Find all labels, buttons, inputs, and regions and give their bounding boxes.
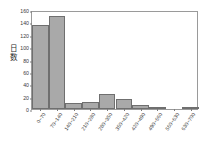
y-tick-mark: [30, 12, 32, 13]
x-tick-label-text: 280~350: [97, 112, 113, 132]
x-tick-label-text: 560~630: [164, 112, 180, 132]
y-tick-mark: [30, 111, 32, 112]
bar: [99, 94, 116, 109]
bar: [116, 99, 133, 109]
x-tick-label-text: 420~490: [131, 112, 147, 132]
x-tick-label-text: 140~210: [64, 112, 80, 132]
x-tick-label-text: 350~420: [114, 112, 130, 132]
histogram-chart: 日 数 020406080100120140160 0~7070~140140~…: [0, 0, 206, 142]
y-axis-title: 日 数: [7, 44, 19, 63]
x-tick-label-text: 70~140: [49, 112, 63, 129]
bar: [49, 16, 66, 109]
plot-inner: 020406080100120140160: [32, 12, 197, 109]
bar: [82, 102, 99, 109]
y-axis-title-char-2: 数: [10, 53, 17, 62]
plot-area: 020406080100120140160: [31, 11, 198, 110]
x-tick-label-text: 630~700: [181, 112, 197, 132]
x-tick-label-text: 0~70: [36, 112, 47, 125]
bar: [32, 25, 49, 109]
y-axis-title-char-1: 日: [10, 44, 17, 53]
x-tick-label-text: 490~560: [148, 112, 164, 132]
x-tick-label-text: 210~280: [81, 112, 97, 132]
